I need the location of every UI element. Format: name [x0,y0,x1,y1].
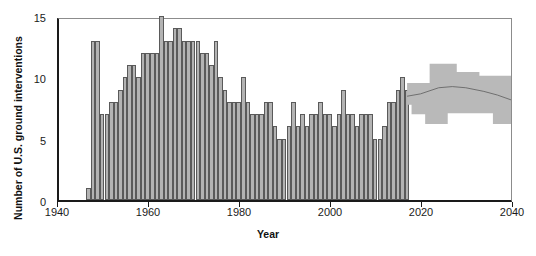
x-tick-label: 1940 [45,206,69,218]
x-tick-label: 1980 [227,206,251,218]
x-tick-mark [148,202,149,207]
y-tick-label: 15 [22,12,46,24]
y-tick-label: 0 [22,196,46,208]
plot-area [57,18,512,202]
projection-band [59,19,511,200]
x-tick-mark [330,202,331,207]
x-tick-mark [421,202,422,207]
y-tick-label: 10 [22,73,46,85]
x-tick-mark [239,202,240,207]
x-tick-label: 2040 [500,206,524,218]
x-tick-label: 2020 [409,206,433,218]
x-tick-label: 2000 [318,206,342,218]
x-tick-mark [512,202,513,207]
y-tick-label: 5 [22,135,46,147]
x-tick-label: 1960 [136,206,160,218]
chart-figure: Number of U.S. ground interventions Year… [0,0,536,256]
projection-uncertainty-area [407,64,511,124]
x-tick-mark [57,202,58,207]
x-axis-title: Year [0,228,536,240]
y-axis-title: Number of U.S. ground interventions [12,36,24,220]
